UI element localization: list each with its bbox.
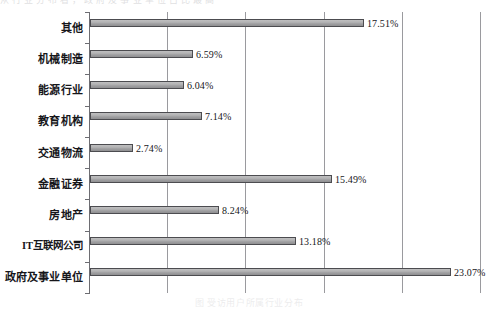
y-axis-tick — [85, 231, 90, 232]
bar-value-label: 23.07% — [454, 267, 485, 278]
bar-value-label: 15.49% — [335, 174, 366, 185]
bar — [90, 50, 193, 58]
y-axis-tick — [85, 43, 90, 44]
clipped-caption-below-chart: 图 受访用户所属行业分布 — [0, 298, 498, 309]
bar — [90, 144, 133, 152]
category-label: 机械制造 — [0, 53, 83, 65]
bar — [90, 268, 451, 276]
bar — [90, 112, 202, 120]
category-label: 教育机构 — [0, 115, 83, 127]
bar-value-label: 13.18% — [299, 236, 330, 247]
clipped-caption-content: 图 受访用户所属行业分布 — [195, 298, 303, 308]
bar-value-label: 2.74% — [136, 143, 162, 154]
category-label: 房地产 — [0, 209, 83, 221]
bar — [90, 237, 296, 245]
category-label: 金融证券 — [0, 178, 83, 190]
bar — [90, 206, 219, 214]
category-label: 其他 — [0, 22, 83, 34]
y-axis-tick — [85, 199, 90, 200]
bar — [90, 19, 364, 27]
category-label: 能源行业 — [0, 84, 83, 96]
y-axis-tick — [85, 106, 90, 107]
gridline-20 — [402, 12, 403, 293]
y-axis-tick — [85, 74, 90, 75]
industry-distribution-bar-chart: 其他17.51%机械制造6.59%能源行业6.04%教育机构7.14%交通物流2… — [0, 0, 498, 309]
bar — [90, 175, 332, 183]
bar-value-label: 17.51% — [367, 18, 398, 29]
gridline-25 — [480, 12, 481, 293]
bar-value-label: 7.14% — [205, 111, 231, 122]
y-axis-tick — [85, 293, 90, 294]
bar-value-label: 6.04% — [187, 80, 213, 91]
category-label: 政府及事业单位 — [0, 271, 83, 283]
category-label: IT互联网公司 — [0, 240, 83, 252]
y-axis-tick — [85, 262, 90, 263]
bar-value-label: 8.24% — [222, 205, 248, 216]
y-axis-tick — [85, 12, 90, 13]
y-axis-tick — [85, 137, 90, 138]
bar-value-label: 6.59% — [196, 49, 222, 60]
gridline-10 — [245, 12, 246, 293]
gridline-15 — [324, 12, 325, 293]
y-axis-tick — [85, 168, 90, 169]
category-label: 交通物流 — [0, 147, 83, 159]
bar — [90, 81, 184, 89]
